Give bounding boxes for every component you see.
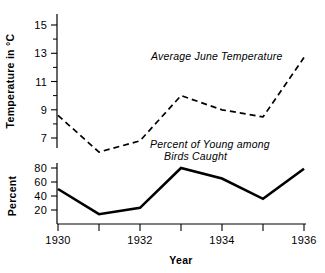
- temperature-y-axis-title: Temperature in °C: [4, 33, 16, 128]
- xtick-label-1936: 1936: [291, 234, 316, 246]
- x-axis-title: Year: [169, 254, 192, 266]
- xtick-label-1934: 1934: [209, 234, 234, 246]
- temperature-ytick-label-11: 11: [35, 76, 47, 88]
- percent-ytick-label-60: 60: [34, 176, 47, 188]
- xtick-label-1932: 1932: [127, 234, 152, 246]
- percent-ytick-label-20: 20: [34, 204, 47, 216]
- chart-svg: 15 13 11 9 7 Temperature in °C Average J…: [0, 0, 325, 273]
- percent-y-axis-title: Percent: [6, 175, 18, 216]
- percent-annotation-line1: Percent of Young among: [150, 138, 270, 150]
- chart-figure: 15 13 11 9 7 Temperature in °C Average J…: [0, 0, 325, 273]
- chart-background: [0, 0, 325, 273]
- xtick-label-1930: 1930: [45, 234, 70, 246]
- percent-ytick-label-40: 40: [34, 190, 47, 202]
- temperature-ytick-label-15: 15: [34, 19, 47, 31]
- percent-ytick-label-80: 80: [34, 162, 47, 174]
- temperature-ytick-label-9: 9: [41, 104, 47, 116]
- temperature-annotation: Average June Temperature: [150, 50, 282, 62]
- percent-annotation-line2: Birds Caught: [164, 150, 228, 162]
- temperature-ytick-label-13: 13: [34, 47, 47, 59]
- temperature-ytick-label-7: 7: [41, 132, 47, 144]
